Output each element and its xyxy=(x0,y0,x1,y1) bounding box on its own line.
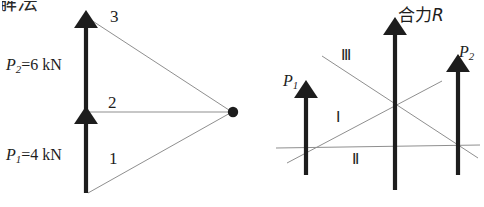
label-force-p1-equals: = xyxy=(21,146,30,163)
label-string-3: Ⅲ xyxy=(341,48,351,63)
pole-point xyxy=(228,107,238,117)
figure-canvas: 解法 P2=6 kN P1=4 kN 3 2 1 合力R P1 P2 Ⅲ Ⅰ Ⅱ xyxy=(0,0,484,207)
label-force-p1: P1=4 kN xyxy=(6,147,62,165)
label-force-p1-unit: kN xyxy=(42,146,62,163)
label-string-1: Ⅰ xyxy=(336,110,340,125)
label-right-force-p2: P2 xyxy=(459,44,474,62)
string-3 xyxy=(322,56,478,158)
label-force-p1-symbol: P xyxy=(6,146,16,163)
label-right-force-p1-subscript: 1 xyxy=(293,79,298,91)
label-force-p2-symbol: P xyxy=(6,56,16,73)
label-resultant-force: 合力R xyxy=(398,7,444,24)
label-right-force-p1: P1 xyxy=(283,73,298,91)
right-diagram-group xyxy=(276,30,480,190)
label-ray-2: 2 xyxy=(108,94,117,111)
label-ray-3: 3 xyxy=(110,8,119,25)
label-ray-1: 1 xyxy=(109,150,118,167)
label-resultant-chinese: 合力 xyxy=(398,5,432,25)
label-right-force-p2-symbol: P xyxy=(459,43,469,60)
label-resultant-symbol: R xyxy=(432,5,444,25)
label-right-force-p2-subscript: 2 xyxy=(469,50,474,62)
string-1 xyxy=(287,81,442,163)
label-force-p2-equals: = xyxy=(21,56,30,73)
page-heading-cropped: 解法 xyxy=(0,0,38,13)
label-string-2: Ⅱ xyxy=(352,152,359,167)
label-force-p2: P2=6 kN xyxy=(6,57,62,75)
right-force-vectors xyxy=(306,30,458,190)
label-force-p2-unit: kN xyxy=(42,56,62,73)
label-right-force-p1-symbol: P xyxy=(283,72,293,89)
figure-vector-graphics xyxy=(0,0,484,207)
